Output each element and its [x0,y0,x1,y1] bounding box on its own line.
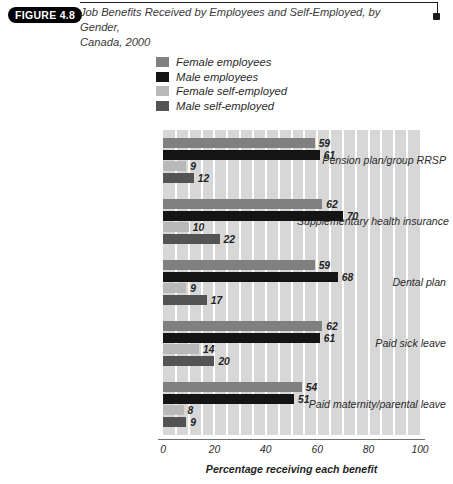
bar-value-label: 59 [319,260,330,271]
x-tick-label: 60 [311,444,322,455]
bar-row: 8 [163,405,420,415]
x-tick-label: 80 [363,444,374,455]
bar [163,234,220,244]
bar-row: 9 [163,283,420,293]
bar [163,417,186,427]
bar-value-label: 62 [326,321,337,332]
bar-row: 9 [163,417,420,427]
x-axis-line [158,439,425,440]
bar [163,173,194,183]
legend-swatch-icon [156,72,169,82]
legend-item: Female self-employed [156,84,396,99]
bar [163,211,343,221]
legend-item-label: Male employees [176,71,258,83]
bar-value-label: 54 [306,382,317,393]
bar [163,394,294,404]
x-tick-label: 0 [160,444,166,455]
bar-row: 9 [163,161,420,171]
header-end-dot-icon [433,13,440,20]
bar-group: 62611420 [0,321,453,366]
header-rule [80,2,438,3]
bar [163,321,322,331]
bar [163,344,199,354]
bar-row: 61 [163,333,420,343]
bar-row: 59 [163,138,420,148]
bar-value-label: 61 [324,332,335,343]
bar [163,333,320,343]
bar [163,260,315,270]
legend-item-label: Female self-employed [176,85,287,97]
bar-group: 62701022 [0,199,453,244]
bar [163,150,320,160]
x-tick-label: 40 [260,444,271,455]
bar-value-label: 22 [224,233,235,244]
bar-value-label: 51 [298,393,309,404]
figure-number-badge: FIGURE 4.8 [8,7,82,23]
chart-legend: Female employeesMale employeesFemale sel… [156,55,396,113]
bar [163,272,338,282]
bar-row: 22 [163,234,420,244]
legend-item: Male self-employed [156,99,396,114]
legend-item-label: Female employees [176,56,271,68]
bar [163,283,186,293]
legend-item: Female employees [156,55,396,70]
bar [163,405,184,415]
bar-group: 545189 [0,382,453,427]
bar [163,161,186,171]
figure-header: FIGURE 4.8 Job Benefits Received by Empl… [0,0,453,46]
bar-row: 10 [163,222,420,232]
legend-swatch-icon [156,101,169,111]
figure-title-line-2: Canada, 2000 [80,35,420,50]
bar-value-label: 10 [193,222,204,233]
bar-group: 5961912 [0,138,453,183]
bar [163,138,315,148]
figure-title-line-1: Job Benefits Received by Employees and S… [80,5,420,35]
x-axis-label: Percentage receiving each benefit [163,463,420,475]
bar [163,356,214,366]
legend-item-label: Male self-employed [176,100,274,112]
bar-row: 17 [163,295,420,305]
bar-group: 5968917 [0,260,453,305]
bar-row: 12 [163,173,420,183]
legend-item: Male employees [156,70,396,85]
bar-row: 54 [163,382,420,392]
bar [163,382,302,392]
bar-value-label: 17 [211,294,222,305]
bar [163,199,322,209]
bar-chart: Percentage receiving each benefit Pensio… [0,118,453,484]
bar-value-label: 9 [190,283,196,294]
bar-row: 59 [163,260,420,270]
bar-value-label: 20 [218,355,229,366]
bar-row: 14 [163,344,420,354]
legend-swatch-icon [156,86,169,96]
bar-value-label: 12 [198,172,209,183]
bar-value-label: 70 [347,210,358,221]
bar [163,295,207,305]
bar-row: 61 [163,150,420,160]
bar-value-label: 9 [190,416,196,427]
bar-row: 62 [163,199,420,209]
bar-row: 62 [163,321,420,331]
legend-swatch-icon [156,57,169,67]
x-tick-label: 100 [411,444,428,455]
bar-value-label: 68 [342,271,353,282]
bar-value-label: 14 [203,344,214,355]
bar-row: 70 [163,211,420,221]
bar-value-label: 62 [326,199,337,210]
bar-value-label: 8 [188,405,194,416]
bar-row: 20 [163,356,420,366]
bar-value-label: 59 [319,138,330,149]
bar-row: 68 [163,272,420,282]
figure-title: Job Benefits Received by Employees and S… [80,5,420,50]
bar-row: 51 [163,394,420,404]
bar [163,222,189,232]
bar-value-label: 61 [324,149,335,160]
bar-value-label: 9 [190,161,196,172]
x-tick-label: 20 [209,444,220,455]
